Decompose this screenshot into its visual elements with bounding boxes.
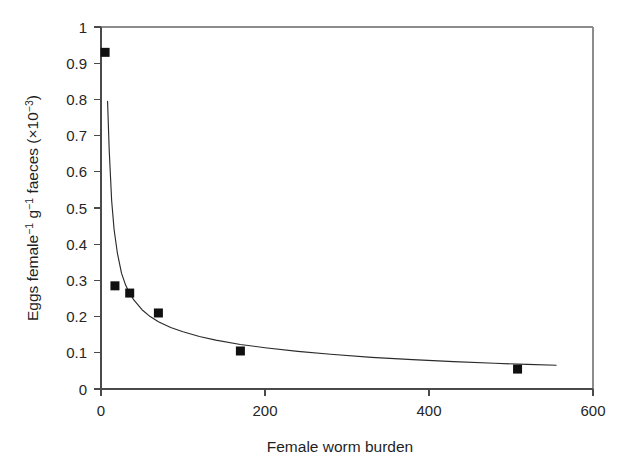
x-tick-label: 200 <box>252 402 277 419</box>
y-tick-label: 0.1 <box>66 344 87 361</box>
y-axis-title-sup1: −1 <box>23 223 35 235</box>
y-axis-title-seg2: g <box>24 210 41 223</box>
y-axis-ticks <box>94 27 101 389</box>
plot-area-background <box>101 27 593 389</box>
y-tick-label: 0.3 <box>66 272 87 289</box>
data-point <box>154 308 163 317</box>
y-tick-label: 0.4 <box>66 236 87 253</box>
x-axis-title: Female worm burden <box>267 438 413 455</box>
scatter-plot: 0 0.1 0.2 0.3 0.4 0.5 0.6 0.7 0.8 0.9 1 … <box>0 0 633 475</box>
x-axis-tick-labels: 0 200 400 600 <box>97 402 606 419</box>
y-tick-label: 0.5 <box>66 200 87 217</box>
y-axis-tick-labels: 0 0.1 0.2 0.3 0.4 0.5 0.6 0.7 0.8 0.9 1 <box>66 19 87 398</box>
data-point <box>513 365 522 374</box>
figure-container: 0 0.1 0.2 0.3 0.4 0.5 0.6 0.7 0.8 0.9 1 … <box>0 0 633 475</box>
y-tick-label: 0.2 <box>66 308 87 325</box>
y-tick-label: 1 <box>79 19 87 36</box>
x-tick-label: 400 <box>416 402 441 419</box>
x-tick-label: 600 <box>580 402 605 419</box>
y-tick-label: 0.6 <box>66 163 87 180</box>
y-axis-title-seg1: Eggs female <box>24 235 41 321</box>
y-axis-title-sup3: −3 <box>23 100 35 112</box>
y-tick-label: 0 <box>79 381 87 398</box>
y-tick-label: 0.8 <box>66 91 87 108</box>
x-axis-ticks <box>101 389 593 396</box>
y-tick-label: 0.9 <box>66 55 87 72</box>
y-tick-label: 0.7 <box>66 127 87 144</box>
data-point <box>125 289 134 298</box>
data-point <box>110 281 119 290</box>
y-axis-title: Eggs female−1 g−1 faeces (×10−3) <box>23 95 41 321</box>
y-axis-title-sup2: −1 <box>23 198 35 210</box>
y-axis-title-seg3: faeces (×10 <box>24 112 41 198</box>
data-point <box>101 48 110 57</box>
x-tick-label: 0 <box>97 402 105 419</box>
y-axis-title-seg4: ) <box>24 95 41 100</box>
data-point <box>236 346 245 355</box>
